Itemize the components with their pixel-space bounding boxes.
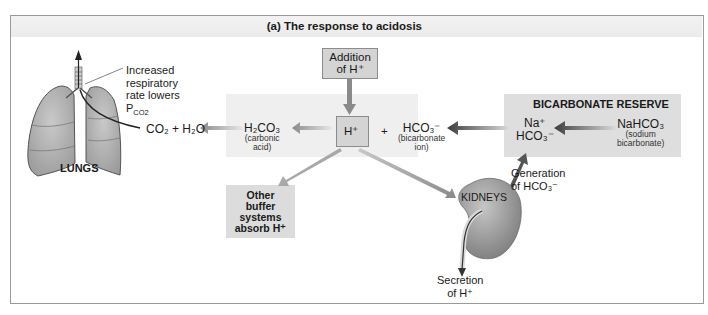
lungs-label: LUNGS <box>60 162 99 174</box>
secretion-label: Secretion of H⁺ <box>437 274 483 300</box>
hco3-label: HCO₃⁻ (bicarbonate ion) <box>398 122 445 152</box>
h-plus-label: H⁺ <box>344 125 358 137</box>
lungs-illustration <box>28 50 140 176</box>
other-buffers-label: Other buffer systems absorb H⁺ <box>228 190 293 234</box>
nahco3-label: NaHCO₃ (sodium bicarbonate) <box>617 118 664 148</box>
h2co3-label: H₂CO₃ (carbonic acid) <box>244 122 280 152</box>
bicarbonate-reserve-title: BICARBONATE RESERVE <box>533 98 669 110</box>
addition-of-h-label: Addition of H⁺ <box>326 51 374 75</box>
kidneys-label: KIDNEYS <box>461 191 507 203</box>
plus-sign: + <box>381 125 388 137</box>
co2-h2o-label: CO₂ + H₂O <box>146 123 205 135</box>
generation-label: Generation of HCO₃⁻ <box>511 167 565 193</box>
lungs-annotation: Increased respiratory rate lowers PCO2 <box>126 64 180 119</box>
na-hco3-label: Na⁺ HCO₃⁻ <box>516 117 554 143</box>
